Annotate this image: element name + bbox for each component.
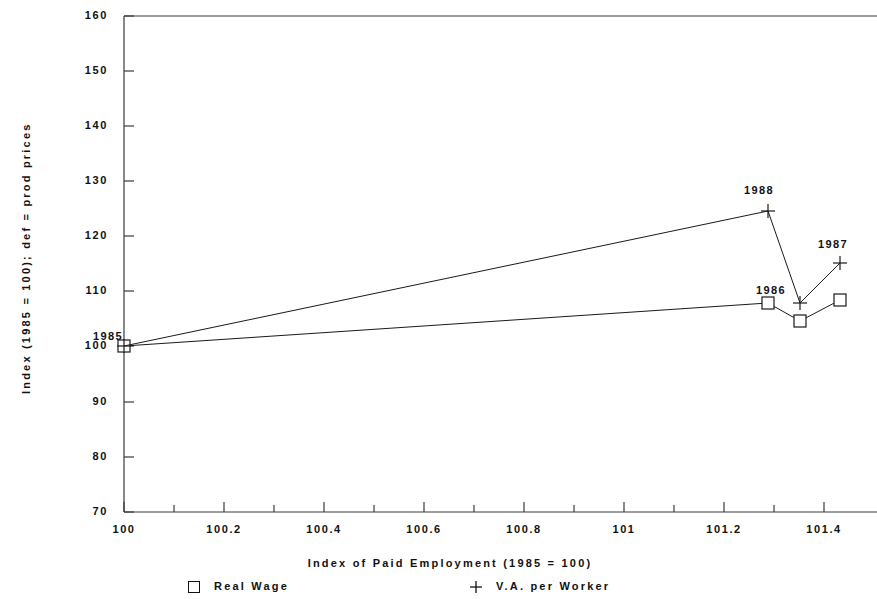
legend-label-real-wage: Real Wage [214, 580, 289, 592]
x-tick-label-101: 101 [579, 523, 669, 535]
y-tick-label-80: 80 [62, 450, 108, 462]
x-tick-label-100-4: 100.4 [279, 523, 369, 535]
axis-frame [124, 16, 877, 512]
y-axis-ticks [124, 16, 134, 512]
y-tick-label-130: 130 [62, 174, 108, 186]
series-va-per-worker [117, 204, 847, 353]
y-tick-label-110: 110 [62, 284, 108, 296]
annotation-1985: 1985 [93, 330, 123, 342]
annotation-1988: 1988 [744, 184, 774, 196]
plus-marker-icon [470, 581, 482, 593]
legend-label-va-per-worker: V.A. per Worker [496, 580, 610, 592]
x-tick-label-100-6: 100.6 [379, 523, 469, 535]
y-tick-label-140: 140 [62, 119, 108, 131]
y-tick-label-70: 70 [62, 505, 108, 517]
real-wage-point-1986 [762, 297, 774, 309]
chart-figure: 160 150 140 130 120 110 100 90 80 70 100… [0, 0, 877, 599]
y-tick-label-160: 160 [62, 9, 108, 21]
legend-entry-real-wage: Real Wage [188, 578, 408, 596]
y-tick-label-120: 120 [62, 229, 108, 241]
va-point-1988 [761, 204, 775, 218]
y-axis-title: Index (1985 = 100); def = prod prices [20, 134, 32, 394]
x-tick-label-100-8: 100.8 [479, 523, 569, 535]
square-marker-icon [188, 581, 200, 593]
x-tick-label-100: 100 [79, 523, 169, 535]
legend-entry-va-per-worker: V.A. per Worker [470, 578, 760, 596]
annotation-1986: 1986 [756, 284, 786, 296]
x-axis-title: Index of Paid Employment (1985 = 100) [190, 557, 710, 569]
real-wage-point-1987 [794, 315, 806, 327]
x-tick-label-101-2: 101.2 [679, 523, 769, 535]
x-tick-label-101-4: 101.4 [779, 523, 869, 535]
annotation-1987: 1987 [818, 238, 848, 250]
scatter-plot-canvas [0, 0, 877, 599]
series-real-wage [118, 294, 846, 352]
x-axis-minor-ticks [174, 505, 774, 512]
real-wage-point-1988 [834, 294, 846, 306]
y-tick-label-90: 90 [62, 395, 108, 407]
x-tick-label-100-2: 100.2 [179, 523, 269, 535]
chart-legend: Real Wage V.A. per Worker [0, 578, 877, 596]
va-per-worker-line [124, 211, 840, 346]
y-tick-label-150: 150 [62, 64, 108, 76]
